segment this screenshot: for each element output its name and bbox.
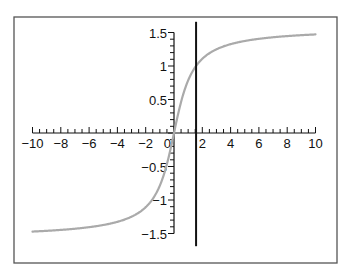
x-tick-label: 6	[255, 136, 262, 151]
y-tick-label: 1.5	[149, 26, 167, 41]
x-tick-label: −2	[138, 136, 153, 151]
x-tick-label: 2	[199, 136, 206, 151]
x-tick-label: −10	[21, 136, 43, 151]
x-tick-label: 10	[308, 136, 322, 151]
y-tick-label: −1.5	[141, 227, 167, 242]
x-tick-label: −6	[82, 136, 97, 151]
x-tick-label: 8	[284, 136, 291, 151]
x-tick-label: −8	[53, 136, 68, 151]
y-tick-label: 1	[160, 59, 167, 74]
plot-canvas: −10−8−6−4−20246810−1.5−1−0.50.511.5	[0, 0, 351, 275]
x-tick-label: −4	[110, 136, 125, 151]
y-tick-label: −0.5	[141, 160, 167, 175]
y-tick-label: 0.5	[149, 93, 167, 108]
x-tick-label: 4	[227, 136, 234, 151]
